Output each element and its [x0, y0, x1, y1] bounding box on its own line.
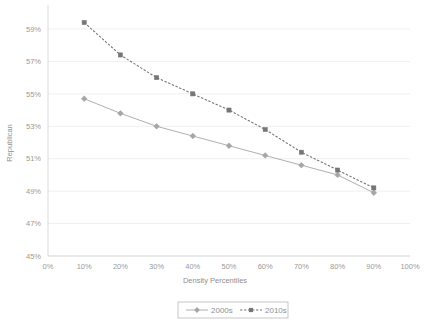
chart-container: 45%47%49%51%53%55%57%59% 0%10%20%30%40%5…: [0, 0, 426, 326]
legend-label-2010s: 2010s: [265, 306, 287, 315]
x-tick-label: 70%: [294, 262, 309, 271]
data-point-marker-2010s: [191, 92, 195, 96]
data-point-marker-2000s: [118, 110, 124, 116]
y-tick-label: 47%: [26, 219, 41, 228]
y-tick-label: 53%: [26, 122, 41, 131]
data-point-marker-2010s: [299, 150, 303, 154]
x-tick-label: 20%: [113, 262, 128, 271]
data-point-marker-2010s: [263, 127, 267, 131]
data-point-marker-2010s: [372, 186, 376, 190]
axis-lines-group: [48, 5, 410, 256]
x-axis-tick-labels: 0%10%20%30%40%50%60%70%80%90%100%: [43, 262, 420, 271]
data-point-marker-2010s: [155, 76, 159, 80]
y-tick-label: 55%: [26, 90, 41, 99]
x-tick-label: 80%: [330, 262, 345, 271]
data-point-marker-2010s: [336, 168, 340, 172]
y-tick-label: 49%: [26, 187, 41, 196]
data-point-marker-2000s: [335, 172, 341, 178]
data-point-marker-2010s: [227, 108, 231, 112]
data-point-marker-2000s: [262, 153, 268, 159]
data-series-group: [81, 20, 376, 195]
x-axis-title: Density Percentiles: [183, 276, 247, 285]
x-tick-label: 40%: [185, 262, 200, 271]
y-tick-label: 45%: [26, 252, 41, 261]
data-point-marker-2000s: [154, 123, 160, 129]
x-tick-label: 90%: [366, 262, 381, 271]
y-axis-title: Republican: [5, 124, 14, 162]
y-tick-label: 51%: [26, 154, 41, 163]
data-point-marker-2000s: [226, 143, 232, 149]
x-tick-label: 30%: [149, 262, 164, 271]
data-point-marker-2000s: [190, 133, 196, 139]
legend-label-2000s: 2000s: [211, 306, 233, 315]
data-point-marker-2010s: [118, 53, 122, 57]
data-point-marker-2000s: [371, 190, 377, 196]
legend-marker-2010s: [249, 308, 253, 312]
y-tick-label: 59%: [26, 25, 41, 34]
x-tick-label: 10%: [77, 262, 92, 271]
chart-legend: 2000s2010s: [178, 302, 288, 318]
y-axis-tick-labels: 45%47%49%51%53%55%57%59%: [26, 25, 41, 261]
y-tick-label: 57%: [26, 57, 41, 66]
series-line-2010s: [84, 23, 374, 188]
data-point-marker-2000s: [299, 162, 305, 168]
line-chart: 45%47%49%51%53%55%57%59% 0%10%20%30%40%5…: [0, 0, 426, 326]
x-tick-label: 100%: [400, 262, 420, 271]
x-tick-label: 0%: [43, 262, 54, 271]
x-tick-label: 60%: [258, 262, 273, 271]
x-tick-label: 50%: [221, 262, 236, 271]
data-point-marker-2010s: [82, 20, 86, 24]
data-point-marker-2000s: [81, 96, 87, 102]
